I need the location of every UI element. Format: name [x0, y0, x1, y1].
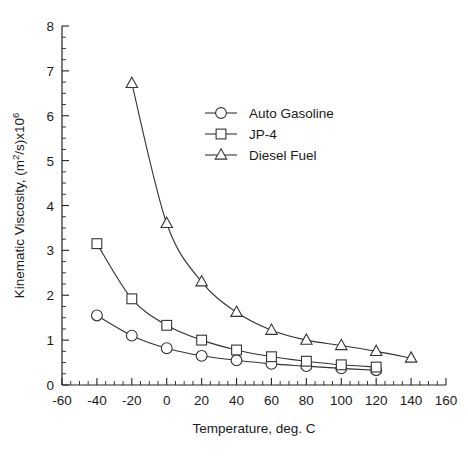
marker-square	[92, 239, 102, 249]
marker-circle	[196, 350, 207, 361]
legend-label: JP-4	[249, 127, 277, 142]
marker-circle	[231, 355, 242, 366]
marker-square	[267, 352, 277, 362]
legend-label: Auto Gasoline	[249, 106, 334, 121]
y-tick-label: 8	[46, 19, 54, 34]
marker-square	[162, 320, 172, 330]
marker-square	[371, 362, 381, 372]
y-tick-label: 3	[46, 243, 54, 258]
marker-square	[197, 335, 207, 345]
marker-circle	[161, 343, 172, 354]
x-tick-label: -60	[52, 393, 72, 408]
x-tick-label: -40	[87, 393, 107, 408]
x-tick-label: 20	[194, 393, 209, 408]
x-tick-label: 120	[365, 393, 388, 408]
legend-label: Diesel Fuel	[249, 148, 317, 163]
x-tick-label: 0	[163, 393, 171, 408]
x-tick-label: 140	[400, 393, 423, 408]
marker-circle	[92, 310, 103, 321]
y-tick-label: 7	[46, 64, 54, 79]
x-axis-title: Temperature, deg. C	[192, 421, 315, 436]
x-tick-label: 60	[264, 393, 279, 408]
kinematic-viscosity-chart: 012345678 -60-40-20020406080100120140160…	[0, 0, 468, 464]
y-axis-title: Kinematic Viscosity, (m2/s)x106	[10, 113, 27, 299]
x-tick-label: 40	[229, 393, 244, 408]
marker-square	[216, 129, 226, 139]
chart-canvas: 012345678 -60-40-20020406080100120140160…	[0, 0, 468, 464]
y-tick-label: 1	[46, 333, 54, 348]
marker-square	[301, 356, 311, 366]
x-tick-label: 80	[299, 393, 314, 408]
y-tick-label: 5	[46, 154, 54, 169]
marker-circle	[216, 108, 227, 119]
x-tick-label: 100	[330, 393, 353, 408]
marker-square	[232, 345, 242, 355]
y-tick-label: 2	[46, 288, 54, 303]
y-tick-label: 0	[46, 378, 54, 393]
y-tick-label: 4	[46, 199, 54, 214]
x-tick-label: -20	[122, 393, 142, 408]
marker-circle	[126, 330, 137, 341]
marker-square	[127, 294, 137, 304]
marker-square	[336, 360, 346, 370]
x-tick-label: 160	[435, 393, 458, 408]
y-tick-label: 6	[46, 109, 54, 124]
